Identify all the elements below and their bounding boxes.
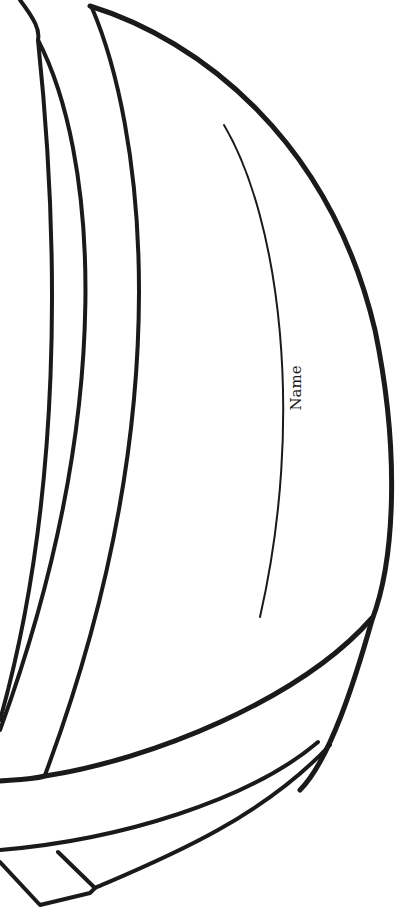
name-line (224, 125, 283, 617)
name-label: Name (287, 365, 305, 410)
hat-outline-drawing (0, 0, 406, 914)
crease-line (45, 8, 139, 775)
coloring-page: Name (0, 0, 406, 914)
band-line-1 (0, 0, 52, 720)
flap-shape (0, 852, 95, 905)
band-line-2 (0, 40, 85, 730)
brim-edge-lower (95, 745, 330, 888)
